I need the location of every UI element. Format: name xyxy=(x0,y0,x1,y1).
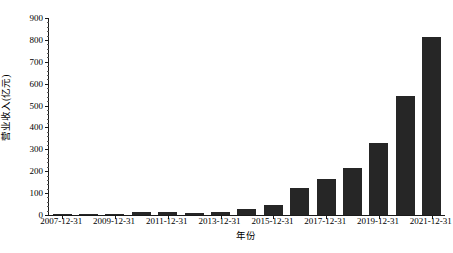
x-axis-tick-label: 2009-12-31 xyxy=(93,217,135,226)
y-axis-tick-label: 400 xyxy=(30,123,44,132)
bar xyxy=(105,214,124,215)
y-axis-tick-label: 800 xyxy=(30,35,44,44)
y-axis-tick-label: 500 xyxy=(30,101,44,110)
bar xyxy=(79,214,98,215)
y-axis-tick-label: 200 xyxy=(30,167,44,176)
bar xyxy=(369,143,388,215)
bar xyxy=(396,96,415,215)
y-axis-tick-label: 700 xyxy=(30,57,44,66)
x-axis-tick-labels: 2007-12-312009-12-312011-12-312013-12-31… xyxy=(0,217,453,233)
y-axis-tick-label: 300 xyxy=(30,145,44,154)
bar xyxy=(264,205,283,216)
x-axis-tick-label: 2019-12-31 xyxy=(357,217,399,226)
plot-area xyxy=(48,18,445,216)
x-axis-tick-label: 2013-12-31 xyxy=(199,217,241,226)
bar xyxy=(185,213,204,215)
x-axis-tick-label: 2007-12-31 xyxy=(40,217,82,226)
bar xyxy=(158,212,177,215)
bar-series xyxy=(49,18,445,215)
y-axis-tick-label: 600 xyxy=(30,79,44,88)
y-axis-tick-label: 900 xyxy=(30,14,44,23)
bar xyxy=(132,212,151,215)
x-axis-tick-label: 2021-12-31 xyxy=(410,217,452,226)
bar-chart-figure: 营业收入(亿元) 0100200300400500600700800900 20… xyxy=(0,0,453,253)
bar xyxy=(237,209,256,215)
bar xyxy=(317,179,336,215)
bar xyxy=(211,212,230,216)
x-axis-tick-label: 2017-12-31 xyxy=(304,217,346,226)
y-axis-title-text: 营业收入(亿元) xyxy=(2,74,12,140)
bar xyxy=(53,214,72,215)
y-axis-tick-label: 100 xyxy=(30,189,44,198)
bar xyxy=(290,188,309,215)
bar xyxy=(343,168,362,215)
bar xyxy=(422,37,441,215)
y-axis-title: 营业收入(亿元) xyxy=(0,0,14,215)
x-axis-tick-label: 2015-12-31 xyxy=(251,217,293,226)
x-axis-tick-label: 2011-12-31 xyxy=(146,217,188,226)
x-axis-title: 年份 xyxy=(48,232,444,242)
